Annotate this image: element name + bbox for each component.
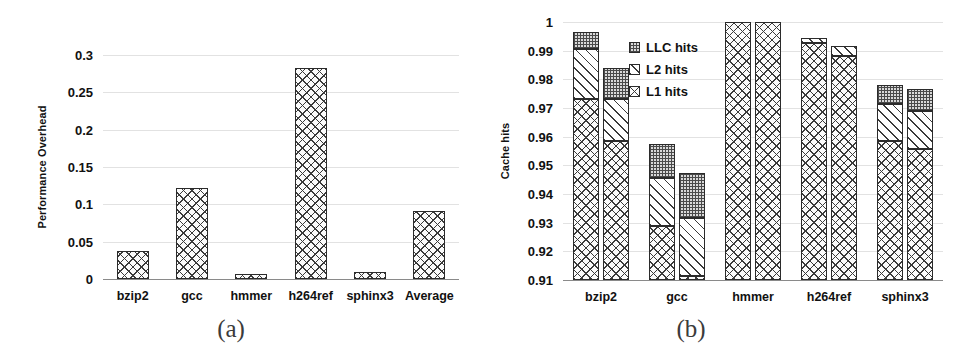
legend-swatch-icon xyxy=(629,86,640,97)
segment-l1-hits xyxy=(573,99,599,280)
bar-bzip2 xyxy=(117,251,149,279)
x-tick-label-sphinx3: sphinx3 xyxy=(881,291,928,304)
y-tick-label: 0.97 xyxy=(528,102,553,115)
y-tick-label: 0.91 xyxy=(528,274,553,287)
segment-llc-hits xyxy=(679,173,705,217)
legend-cache-hits: LLC hitsL2 hitsL1 hits xyxy=(629,36,698,102)
x-tick-label-bzip2: bzip2 xyxy=(585,291,617,304)
panel-b-cache-hits: Cache hits 0.910.920.930.940.950.960.970… xyxy=(483,0,966,364)
x-axis-line xyxy=(563,280,943,281)
segment-l2-hits xyxy=(573,49,599,99)
bar-hmmer xyxy=(235,274,267,279)
segment-l1-hits xyxy=(831,56,857,280)
bar-bzip2-2 xyxy=(603,68,629,280)
y-tick-label: 0.93 xyxy=(528,216,553,229)
y-tick-label: 0.2 xyxy=(75,123,93,136)
segment-l2-hits xyxy=(877,104,903,141)
bar-h264ref-2 xyxy=(831,46,857,280)
segment-l1-hits xyxy=(755,22,781,280)
legend-item-llc-hits: LLC hits xyxy=(629,36,698,58)
segment-l1-hits xyxy=(907,149,933,280)
segment-l1-hits xyxy=(801,43,827,280)
segment-l1-hits xyxy=(679,276,705,280)
y-tick-label: 0.98 xyxy=(528,73,553,86)
plot-area-cache-hits: 0.910.920.930.940.950.960.970.980.991 bz… xyxy=(563,22,943,280)
segment-llc-hits xyxy=(877,85,903,104)
legend-swatch-icon xyxy=(629,42,640,53)
x-tick-label-hmmer: hmmer xyxy=(732,291,774,304)
segment-l1-hits xyxy=(603,141,629,280)
panel-b-caption: (b) xyxy=(676,315,705,343)
gridline xyxy=(563,51,943,52)
legend-swatch-icon xyxy=(629,64,640,75)
x-tick-label-h264ref: h264ref xyxy=(288,290,332,303)
bar-gcc xyxy=(176,188,208,279)
y-tick-label: 0.95 xyxy=(528,159,553,172)
bar-h264ref xyxy=(295,68,327,279)
x-tick-label-hmmer: hmmer xyxy=(230,290,272,303)
segment-l1-hits xyxy=(725,22,751,280)
x-tick-label-Average: Average xyxy=(405,290,454,303)
segment-llc-hits xyxy=(649,144,675,178)
y-tick-label: 0.1 xyxy=(75,198,93,211)
panel-a-performance-overhead: Performance Overhead 00.050.10.150.20.25… xyxy=(0,0,483,364)
gridline xyxy=(103,204,459,205)
x-tick-label-h264ref: h264ref xyxy=(807,291,851,304)
y-tick-label: 0.05 xyxy=(68,235,93,248)
y-tick-label: 0.96 xyxy=(528,130,553,143)
bar-Average xyxy=(413,211,445,279)
plot-area-performance-overhead: 00.050.10.150.20.250.3 bzip2gcchmmerh264… xyxy=(103,55,459,279)
y-tick-label: 0.15 xyxy=(68,161,93,174)
segment-l1-hits xyxy=(649,226,675,280)
bar-bzip2-1 xyxy=(573,32,599,280)
segment-l2-hits xyxy=(603,99,629,141)
segment-llc-hits xyxy=(603,68,629,100)
bar-gcc-2 xyxy=(679,173,705,280)
gridline xyxy=(103,92,459,93)
segment-l1-hits xyxy=(877,141,903,280)
bar-h264ref-1 xyxy=(801,38,827,280)
y-axis-title-performance-overhead: Performance Overhead xyxy=(36,97,48,237)
panel-a-caption: (a) xyxy=(217,315,245,343)
y-tick-label: 0.92 xyxy=(528,245,553,258)
bar-hmmer-1 xyxy=(725,22,751,280)
x-tick-label-bzip2: bzip2 xyxy=(117,290,149,303)
gridline xyxy=(103,130,459,131)
x-axis-line xyxy=(103,279,459,280)
legend-label: L1 hits xyxy=(646,84,688,99)
segment-llc-hits xyxy=(907,89,933,111)
gridline xyxy=(103,55,459,56)
legend-label: L2 hits xyxy=(646,62,688,77)
x-tick-label-gcc: gcc xyxy=(181,290,203,303)
y-tick-label: 0 xyxy=(86,273,93,286)
bar-gcc-1 xyxy=(649,144,675,280)
bar-hmmer-2 xyxy=(755,22,781,280)
segment-l2-hits xyxy=(679,218,705,276)
legend-item-l2-hits: L2 hits xyxy=(629,58,698,80)
y-tick-label: 0.25 xyxy=(68,86,93,99)
bar-sphinx3 xyxy=(354,272,386,279)
gridline xyxy=(103,242,459,243)
legend-label: LLC hits xyxy=(646,40,698,55)
y-tick-label: 0.3 xyxy=(75,49,93,62)
legend-item-l1-hits: L1 hits xyxy=(629,80,698,102)
x-tick-label-sphinx3: sphinx3 xyxy=(346,290,393,303)
bar-sphinx3-1 xyxy=(877,85,903,280)
segment-llc-hits xyxy=(573,32,599,49)
y-tick-label: 0.94 xyxy=(528,188,553,201)
segment-l2-hits xyxy=(907,111,933,149)
figure-container: Performance Overhead 00.050.10.150.20.25… xyxy=(0,0,966,364)
x-tick-label-gcc: gcc xyxy=(666,291,688,304)
gridline xyxy=(563,22,943,23)
y-tick-label: 0.99 xyxy=(528,44,553,57)
gridline xyxy=(103,167,459,168)
bar-sphinx3-2 xyxy=(907,89,933,280)
segment-l2-hits xyxy=(831,46,857,56)
segment-l2-hits xyxy=(649,178,675,225)
y-axis-title-cache-hits: Cache hits xyxy=(499,91,511,211)
y-tick-label: 1 xyxy=(546,16,553,29)
